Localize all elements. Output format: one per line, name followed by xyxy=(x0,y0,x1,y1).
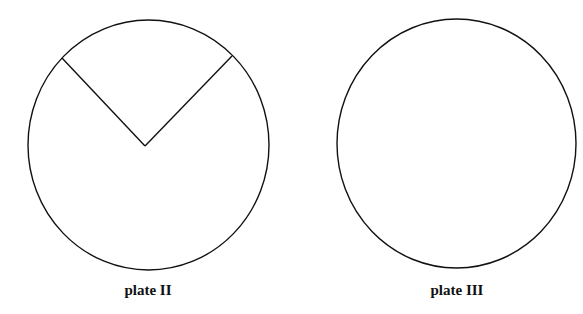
plate-2-circle xyxy=(28,20,269,270)
plate-2-drawing xyxy=(28,20,269,270)
plate-2-cut-line-left xyxy=(62,58,145,146)
plate-3-drawing xyxy=(337,19,576,268)
plate-3-label: plate III xyxy=(431,282,484,299)
plate-2-cut-line-right xyxy=(145,56,232,146)
plate-3-circle xyxy=(337,19,576,268)
plates-diagram xyxy=(0,0,583,314)
plate-2-label: plate II xyxy=(124,282,171,299)
